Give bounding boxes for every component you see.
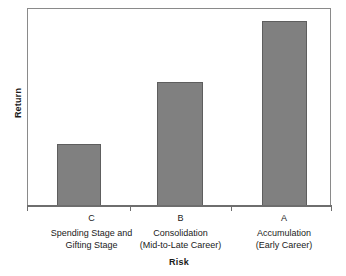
x-tick-label-a-line1: Accumulation [230, 227, 338, 240]
bar-category-b [157, 82, 203, 206]
x-tick-label-b-line2: (Mid-to-Late Career) [114, 239, 247, 252]
x-tick-label-a-key: A [230, 212, 338, 225]
x-tick-label-a: A Accumulation (Early Career) [230, 212, 338, 252]
x-axis-line [27, 205, 332, 207]
bar-chart: Return C Spending Stage and Gifting Stag… [0, 0, 346, 276]
x-tick-label-b-line1: Consolidation [114, 227, 247, 240]
x-tick-label-a-line2: (Early Career) [230, 239, 338, 252]
x-axis-title: Risk [27, 257, 331, 267]
x-tick-label-b: B Consolidation (Mid-to-Late Career) [114, 212, 247, 252]
x-axis-tick-divider-2 [231, 206, 232, 211]
x-axis-tick-start [27, 206, 28, 211]
y-axis-title: Return [13, 73, 23, 133]
bar-category-c [57, 144, 101, 206]
x-tick-label-b-key: B [114, 212, 247, 225]
x-axis-tick-divider-1 [130, 206, 131, 211]
x-axis-tick-end [331, 206, 332, 211]
bar-category-a [262, 21, 307, 206]
